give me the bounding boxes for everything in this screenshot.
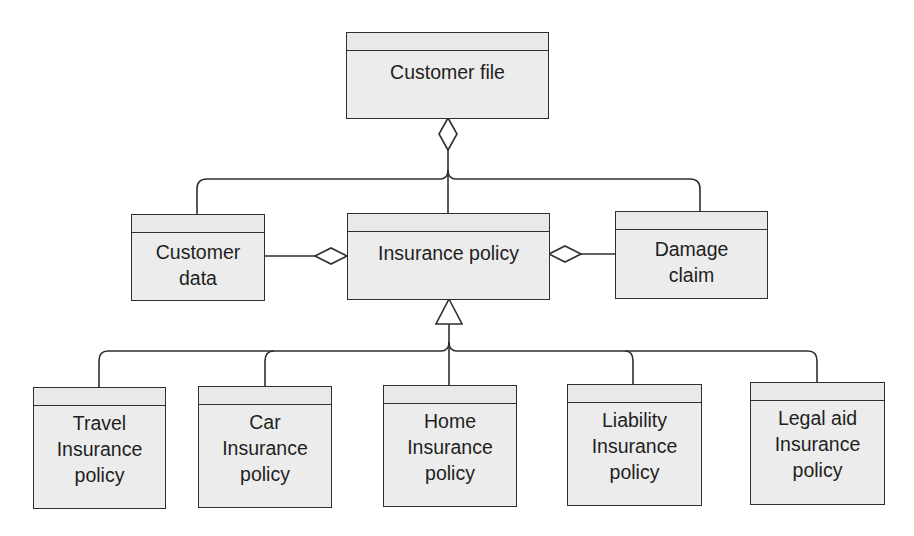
class-diagram: Customer file Customer data Insurance po… [0,0,914,536]
class-liability-insurance-policy[interactable]: Liability Insurance policy [567,384,702,506]
class-header [34,388,165,406]
class-label: Insurance policy [348,232,549,299]
class-label: Liability Insurance policy [568,403,701,505]
class-label: Damage claim [616,230,767,298]
generalization-triangle [436,299,462,324]
class-label: Car Insurance policy [199,405,331,507]
connector-generalization-left-bus [99,342,449,387]
class-header [751,383,884,401]
connector-customer-file-to-customer-data [197,170,448,214]
class-legal-aid-insurance-policy[interactable]: Legal aid Insurance policy [750,382,885,505]
class-car-insurance-policy[interactable]: Car Insurance policy [198,386,332,508]
class-header [348,214,549,232]
class-insurance-policy[interactable]: Insurance policy [347,213,550,300]
class-damage-claim[interactable]: Damage claim [615,211,768,299]
class-header [568,385,701,403]
class-label: Travel Insurance policy [34,406,165,508]
aggregation-diamond-policy-right [549,246,581,262]
class-customer-data[interactable]: Customer data [131,214,265,301]
class-label: Customer file [347,51,548,118]
class-label: Home Insurance policy [384,404,516,506]
aggregation-diamond-customer-file [439,118,457,150]
class-header [132,215,264,233]
connector-generalization-to-liability [625,351,633,384]
connector-customer-file-to-damage-claim [448,170,700,211]
aggregation-diamond-policy-left [315,248,347,264]
class-home-insurance-policy[interactable]: Home Insurance policy [383,385,517,507]
class-header [616,212,767,230]
class-label: Customer data [132,233,264,300]
class-header [199,387,331,405]
class-header [347,33,548,51]
class-customer-file[interactable]: Customer file [346,32,549,119]
connector-generalization-to-car [265,351,274,386]
class-travel-insurance-policy[interactable]: Travel Insurance policy [33,387,166,509]
class-label: Legal aid Insurance policy [751,401,884,504]
class-header [384,386,516,404]
